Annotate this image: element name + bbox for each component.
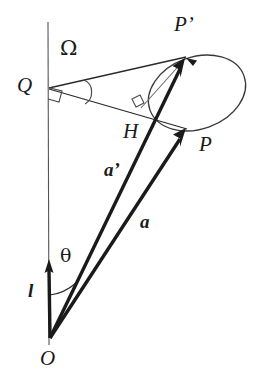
label-h: H — [123, 121, 138, 142]
label-theta: θ — [60, 246, 71, 265]
cone-base-ellipse — [138, 42, 257, 144]
cone-edge-upper — [49, 57, 186, 88]
right-angle-marker-h — [132, 95, 144, 107]
label-o: O — [40, 348, 55, 369]
label-p-prime: P’ — [174, 14, 194, 35]
vector-a-prime — [50, 58, 185, 338]
label-q: Q — [17, 75, 32, 96]
label-vector-a: a — [140, 212, 150, 231]
label-vector-a-prime: a’ — [104, 160, 120, 179]
diagram-canvas — [0, 0, 258, 379]
geometry-figure: Ω Q P’ P H a’ a θ l O — [0, 0, 258, 379]
label-p: P — [199, 134, 212, 155]
label-omega: Ω — [60, 38, 77, 59]
vector-l — [45, 259, 54, 338]
ellipse-arrow-head-p-prime — [186, 58, 197, 66]
label-l: l — [28, 281, 33, 300]
